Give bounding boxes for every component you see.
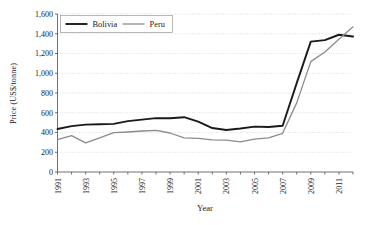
y-axis-ticks: 02004006008001,0001,2001,4001,600: [35, 10, 58, 177]
data-series-lines: [58, 27, 354, 143]
x-axis-ticks: 1991199319951997199920012003200520072009…: [54, 172, 353, 194]
y-tick-label: 1,600: [35, 10, 53, 19]
y-tick-label: 600: [41, 109, 53, 118]
plot-area: 02004006008001,0001,2001,4001,600 199119…: [0, 0, 367, 225]
x-tick-label: 1997: [138, 178, 147, 194]
x-tick-label: 1991: [54, 178, 63, 194]
y-tick-label: 800: [41, 89, 53, 98]
legend-label-bolivia: Bolivia: [93, 20, 118, 29]
x-tick-label: 2007: [279, 178, 288, 194]
x-tick-label: 1999: [166, 178, 175, 194]
legend-label-peru: Peru: [150, 20, 166, 29]
y-tick-label: 400: [41, 128, 53, 137]
x-tick-label: 1995: [110, 178, 119, 194]
y-axis-title: Price (US$/tonne): [6, 14, 22, 172]
axis-lines: [58, 14, 354, 172]
y-tick-label: 1,000: [35, 69, 53, 78]
legend: BoliviaPeru: [61, 16, 173, 33]
y-tick-label: 1,400: [35, 30, 53, 39]
x-axis-title: Year: [57, 203, 353, 213]
y-axis-title-text: Price (US$/tonne): [10, 62, 19, 123]
x-tick-label: 2011: [335, 178, 344, 194]
x-tick-label: 2005: [251, 178, 260, 194]
y-tick-label: 1,200: [35, 49, 53, 58]
x-tick-label: 1993: [82, 178, 91, 194]
y-tick-label: 0: [49, 168, 53, 177]
chart-figure: Price (US$/tonne) 02004006008001,0001,20…: [0, 0, 367, 225]
y-tick-label: 200: [41, 148, 53, 157]
gridlines: [58, 14, 354, 152]
x-tick-label: 2009: [307, 178, 316, 194]
x-tick-label: 2003: [222, 178, 231, 194]
series-line-bolivia: [58, 35, 354, 130]
x-tick-label: 2001: [194, 178, 203, 194]
